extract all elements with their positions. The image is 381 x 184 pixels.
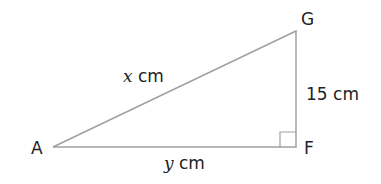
side-label-AG: x cm xyxy=(123,68,164,85)
triangle-AFG xyxy=(53,31,296,147)
side-unit: cm xyxy=(138,66,164,86)
side-label-AF: y cm xyxy=(164,155,205,172)
vertex-label-A: A xyxy=(31,140,43,157)
side-unit: cm xyxy=(179,153,205,173)
side-variable-x: x xyxy=(123,66,133,86)
right-angle-marker xyxy=(280,132,296,147)
side-label-GF: 15 cm xyxy=(306,86,359,103)
vertex-label-G: G xyxy=(301,11,314,28)
side-variable-y: y xyxy=(164,153,174,173)
vertex-label-F: F xyxy=(304,140,314,157)
